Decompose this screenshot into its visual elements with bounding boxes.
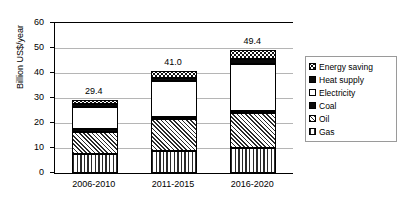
chart-legend: Energy savingHeat supplyElectricityCoalO…	[305, 56, 397, 142]
legend-swatch-icon	[309, 115, 316, 122]
bar-total-label: 41.0	[143, 57, 203, 67]
bar-segment-coal	[231, 111, 275, 114]
y-axis-tick-mark	[50, 147, 54, 148]
bar-segment-coal	[73, 129, 117, 132]
bar-segment-electricity	[152, 81, 196, 117]
y-axis-tick-mark	[50, 172, 54, 173]
legend-item-label: Electricity	[319, 88, 355, 98]
legend-item-label: Oil	[319, 114, 329, 124]
bar-total-label: 29.4	[64, 86, 124, 96]
x-axis-tick-label: 2011-2015	[133, 179, 213, 189]
legend-item-gas[interactable]: Gas	[309, 125, 393, 138]
legend-item-energy-saving[interactable]: Energy saving	[309, 60, 393, 73]
y-axis-tick-label: 0	[0, 167, 44, 177]
legend-item-heat-supply[interactable]: Heat supply	[309, 73, 393, 86]
bar-segment-oil	[73, 132, 117, 155]
bar-segment-electricity	[231, 64, 275, 110]
legend-item-label: Energy saving	[319, 62, 373, 72]
bar-segment-gas	[73, 154, 117, 173]
legend-swatch-icon	[309, 76, 316, 83]
y-axis-tick-label: 40	[0, 67, 44, 77]
legend-swatch-icon	[309, 128, 316, 135]
bar-2006-2010	[72, 100, 118, 174]
bar-2011-2015	[151, 71, 197, 174]
bar-segment-electricity	[73, 107, 117, 130]
y-axis-tick-mark	[50, 22, 54, 23]
legend-item-coal[interactable]: Coal	[309, 99, 393, 112]
bar-segment-gas	[231, 148, 275, 173]
legend-swatch-icon	[309, 102, 316, 109]
bar-total-label: 49.4	[222, 36, 282, 46]
legend-item-label: Gas	[319, 127, 335, 137]
y-axis-tick-label: 20	[0, 117, 44, 127]
legend-item-electricity[interactable]: Electricity	[309, 86, 393, 99]
y-axis-tick-mark	[50, 47, 54, 48]
bar-segment-energy-saving	[152, 71, 196, 79]
bar-2016-2020	[230, 50, 276, 174]
bar-segment-energy-saving	[73, 100, 117, 105]
legend-swatch-icon	[309, 63, 316, 70]
legend-item-oil[interactable]: Oil	[309, 112, 393, 125]
legend-item-label: Coal	[319, 101, 336, 111]
y-axis-tick-mark	[50, 72, 54, 73]
bar-segment-gas	[152, 151, 196, 174]
bar-segment-heat-supply	[231, 59, 275, 64]
stacked-bar-chart: Billion US$/year 0102030405060 2006-2010…	[0, 0, 403, 202]
bar-segment-heat-supply	[152, 78, 196, 81]
bar-segment-oil	[152, 119, 196, 150]
bar-segment-energy-saving	[231, 50, 275, 60]
legend-swatch-icon	[309, 89, 316, 96]
y-axis-tick-label: 30	[0, 92, 44, 102]
y-axis-tick-mark	[50, 122, 54, 123]
x-axis-tick-label: 2006-2010	[54, 179, 134, 189]
y-axis-tick-label: 10	[0, 142, 44, 152]
y-axis-tick-mark	[50, 97, 54, 98]
bar-segment-oil	[231, 113, 275, 148]
bar-segment-heat-supply	[73, 104, 117, 107]
y-axis-tick-label: 60	[0, 17, 44, 27]
legend-item-label: Heat supply	[319, 75, 364, 85]
x-axis-tick-label: 2016-2020	[212, 179, 292, 189]
bar-segment-coal	[152, 117, 196, 120]
y-axis-tick-label: 50	[0, 42, 44, 52]
